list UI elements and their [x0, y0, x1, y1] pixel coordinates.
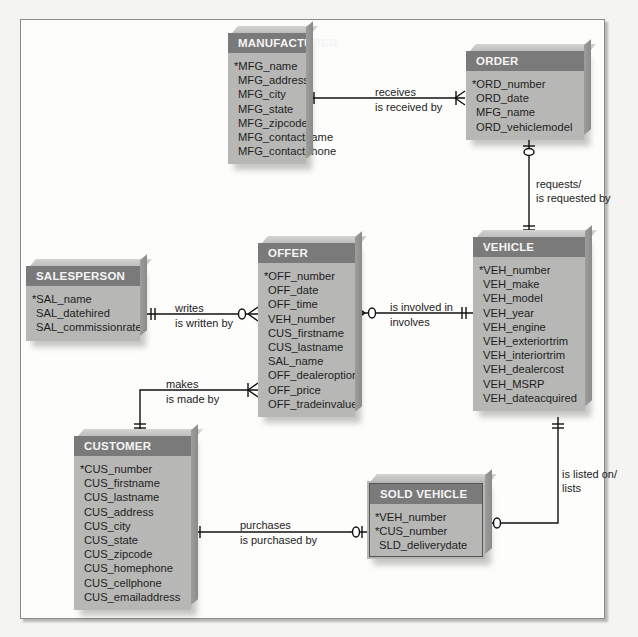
attribute: MFG_contactphone	[234, 144, 300, 158]
attribute-primary-key: *OFF_number	[264, 269, 349, 283]
attribute-list: *ORD_number ORD_date MFG_name ORD_vehicl…	[466, 71, 584, 140]
relationship-label-writes: writes	[175, 301, 204, 315]
attribute: OFF_date	[264, 283, 349, 297]
relationship-label-purchases: purchases	[240, 518, 291, 532]
entity-offer[interactable]: OFFER *OFF_number OFF_date OFF_time VEH_…	[258, 243, 355, 417]
relationship-label-is-made-by: is made by	[166, 392, 219, 406]
entity-salesperson[interactable]: SALESPERSON *SAL_name SAL_datehired SAL_…	[26, 266, 140, 341]
relationship-label-is-requested-by: is requested by	[536, 191, 611, 205]
attribute: CUS_zipcode	[80, 547, 185, 561]
relationship-label-receives: receives	[375, 85, 416, 99]
attribute-list: *VEH_number VEH_make VEH_model VEH_year …	[473, 257, 585, 411]
attribute: OFF_dealeroption	[264, 368, 349, 382]
attribute: MFG_name	[472, 105, 578, 119]
attribute-primary-key: *VEH_number	[479, 263, 579, 277]
attribute-primary-key: *MFG_name	[234, 59, 300, 73]
entity-header: OFFER	[258, 243, 355, 263]
attribute: CUS_homephone	[80, 561, 185, 575]
attribute: MFG_contactname	[234, 130, 300, 144]
attribute: SAL_commissionrate	[32, 320, 134, 334]
attribute: VEH_dealercost	[479, 362, 579, 376]
attribute: CUS_emailaddress	[80, 590, 185, 604]
entity-customer[interactable]: CUSTOMER *CUS_number CUS_firstname CUS_l…	[74, 436, 191, 610]
attribute: CUS_state	[80, 533, 185, 547]
attribute: CUS_cellphone	[80, 576, 185, 590]
attribute: VEH_make	[479, 277, 579, 291]
relationship-label-is-listed-on: is listed on/	[562, 467, 617, 481]
relationship-label-is-received-by: is received by	[375, 100, 442, 114]
attribute-list: *OFF_number OFF_date OFF_time VEH_number…	[258, 263, 355, 417]
attribute-list: *MFG_name MFG_address MFG_city MFG_state…	[228, 53, 306, 164]
attribute: ORD_vehiclemodel	[472, 120, 578, 134]
attribute: CUS_firstname	[264, 326, 349, 340]
relationship-label-lists: lists	[562, 481, 581, 495]
entity-manufacturer[interactable]: MANUFACTURER *MFG_name MFG_address MFG_c…	[228, 33, 306, 164]
attribute: CUS_lastname	[80, 490, 185, 504]
entity-order[interactable]: ORDER *ORD_number ORD_date MFG_name ORD_…	[466, 51, 584, 140]
attribute: SAL_name	[264, 354, 349, 368]
attribute: VEH_dateacquired	[479, 391, 579, 405]
attribute: VEH_model	[479, 291, 579, 305]
attribute: VEH_exteriortrim	[479, 334, 579, 348]
attribute: MFG_city	[234, 87, 300, 101]
entity-header: CUSTOMER	[74, 436, 191, 456]
attribute: OFF_price	[264, 383, 349, 397]
entity-header: SOLD VEHICLE	[370, 484, 482, 504]
attribute-primary-key: *VEH_number	[375, 510, 479, 524]
attribute: OFF_tradeinvalue	[264, 397, 349, 411]
attribute: CUS_lastname	[264, 340, 349, 354]
attribute: CUS_address	[80, 505, 185, 519]
attribute-primary-key: *ORD_number	[472, 77, 578, 91]
attribute-primary-key: *CUS_number	[80, 462, 185, 476]
attribute: OFF_time	[264, 297, 349, 311]
attribute: MFG_address	[234, 73, 300, 87]
attribute: SLD_deliverydate	[375, 538, 479, 552]
attribute: VEH_engine	[479, 320, 579, 334]
attribute: ORD_date	[472, 91, 578, 105]
relationship-label-involves: involves	[390, 315, 430, 329]
attribute: MFG_zipcode	[234, 116, 300, 130]
attribute-list: *SAL_name SAL_datehired SAL_commissionra…	[26, 286, 140, 341]
attribute-primary-key: *CUS_number	[375, 524, 479, 538]
relationship-label-makes: makes	[166, 377, 198, 391]
attribute-list: *VEH_number *CUS_number SLD_deliverydate	[367, 504, 485, 559]
relationship-label-is-purchased-by: is purchased by	[240, 533, 317, 547]
entity-vehicle[interactable]: VEHICLE *VEH_number VEH_make VEH_model V…	[473, 237, 585, 411]
relationship-label-requests: requests/	[536, 177, 581, 191]
entity-header: SALESPERSON	[26, 266, 140, 286]
attribute: MFG_state	[234, 102, 300, 116]
attribute-list: *CUS_number CUS_firstname CUS_lastname C…	[74, 456, 191, 610]
entity-header: VEHICLE	[473, 237, 585, 257]
attribute-primary-key: *SAL_name	[32, 292, 134, 306]
attribute: VEH_MSRP	[479, 377, 579, 391]
attribute: VEH_interiortrim	[479, 348, 579, 362]
relationship-label-is-involved-in: is involved in	[390, 300, 453, 314]
attribute: VEH_number	[264, 312, 349, 326]
entity-header: MANUFACTURER	[228, 33, 306, 53]
attribute: VEH_year	[479, 306, 579, 320]
entity-sold-vehicle[interactable]: SOLD VEHICLE *VEH_number *CUS_number SLD…	[367, 481, 485, 559]
entity-header: ORDER	[466, 51, 584, 71]
relationship-label-is-written-by: is written by	[175, 316, 233, 330]
attribute: CUS_firstname	[80, 476, 185, 490]
attribute: SAL_datehired	[32, 306, 134, 320]
attribute: CUS_city	[80, 519, 185, 533]
